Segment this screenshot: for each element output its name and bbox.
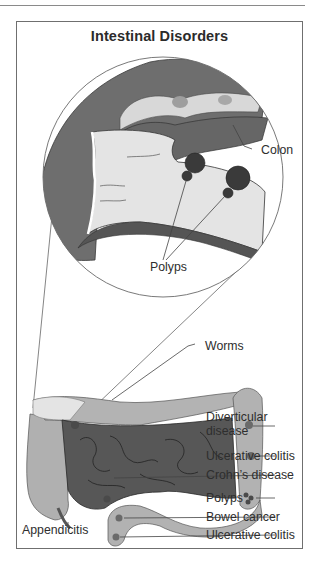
label-ulcerative-colitis-upper: Ulcerative colitis: [206, 449, 295, 463]
label-appendicitis: Appendicitis: [22, 523, 88, 537]
label-polyps-overview: Polyps: [206, 491, 243, 505]
label-worms: Worms: [205, 339, 244, 353]
label-crohns-disease: Crohn’s disease: [206, 468, 294, 482]
label-polyps-magnified: Polyps: [150, 260, 187, 274]
label-ulcerative-colitis-lower: Ulcerative colitis: [206, 528, 295, 542]
label-bowel-cancer: Bowel cancer: [206, 510, 280, 524]
intestine-illustration: [0, 0, 322, 572]
label-diverticular-disease-line2: disease: [206, 424, 248, 438]
label-colon: Colon: [261, 143, 293, 157]
label-diverticular-disease-line1: Diverticular: [206, 410, 268, 424]
